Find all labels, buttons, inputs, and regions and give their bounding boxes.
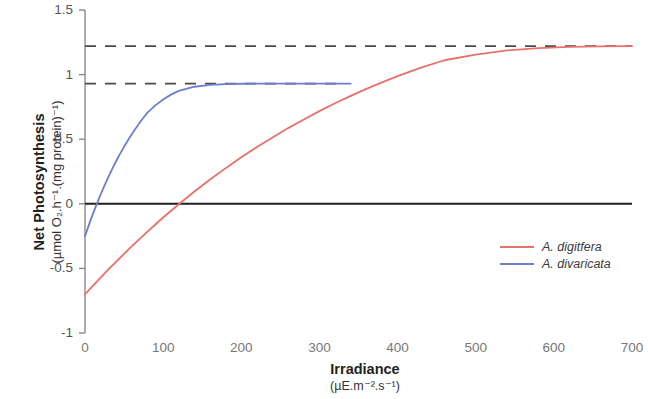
legend-item: A. digitfera <box>500 238 611 255</box>
x-tick-label: 400 <box>368 341 428 355</box>
y-tick-label: 0 <box>27 197 73 211</box>
x-tick-label: 600 <box>524 341 584 355</box>
legend-label: A. digitfera <box>542 240 602 254</box>
x-axis-title: Irradiance (µE.m⁻².s⁻¹) <box>200 360 530 394</box>
x-tick-label: 100 <box>133 341 193 355</box>
x-axis-title-units: (µE.m⁻².s⁻¹) <box>200 378 530 394</box>
y-tick-label: 0.5 <box>27 132 73 146</box>
x-tick-label: 300 <box>289 341 349 355</box>
legend-swatch-icon <box>500 246 534 248</box>
reference-lines <box>85 46 632 204</box>
x-tick-label: 200 <box>211 341 271 355</box>
legend-item: A. divaricata <box>500 255 611 272</box>
series-line <box>85 84 351 236</box>
y-tick-label: -0.5 <box>27 261 73 275</box>
y-axis-ticks <box>79 10 85 333</box>
x-tick-label: 500 <box>446 341 506 355</box>
x-tick-label: 700 <box>602 341 648 355</box>
y-tick-label: -1 <box>27 326 73 340</box>
y-tick-label: 1.5 <box>27 3 73 17</box>
x-axis-title-main: Irradiance <box>200 360 530 378</box>
legend: A. digitferaA. divaricata <box>500 238 611 272</box>
x-tick-label: 0 <box>55 341 115 355</box>
legend-swatch-icon <box>500 263 534 265</box>
legend-label: A. divaricata <box>542 257 611 271</box>
y-tick-label: 1 <box>27 68 73 82</box>
